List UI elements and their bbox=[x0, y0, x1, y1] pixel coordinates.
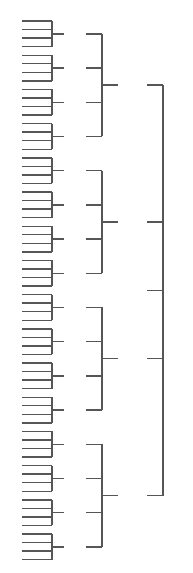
dendrogram-canvas bbox=[0, 0, 193, 573]
